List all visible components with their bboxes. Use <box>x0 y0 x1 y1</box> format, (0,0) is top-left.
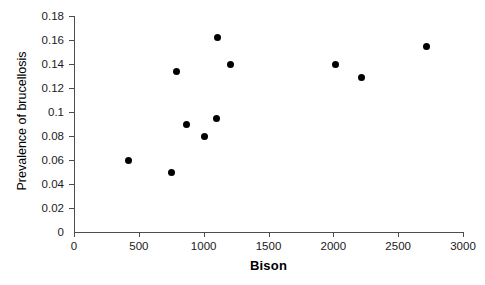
x-tick-label: 1500 <box>256 240 282 252</box>
data-point <box>213 115 220 122</box>
x-tick-mark <box>463 232 464 237</box>
x-tick-mark <box>269 232 270 237</box>
data-point <box>358 74 365 81</box>
data-point <box>125 157 132 164</box>
y-tick-label: 0.18 <box>0 10 64 22</box>
y-tick-label: 0.14 <box>0 58 64 70</box>
y-tick-label: 0.1 <box>0 106 64 118</box>
x-axis-title: Bison <box>74 258 463 273</box>
y-tick-label: 0.04 <box>0 178 64 190</box>
scatter-chart-figure: 00.020.040.060.080.10.120.140.160.18 050… <box>0 0 485 285</box>
x-tick-mark <box>398 232 399 237</box>
data-point <box>173 68 180 75</box>
data-point <box>423 43 430 50</box>
data-point <box>227 61 234 68</box>
x-tick-label: 1000 <box>191 240 217 252</box>
x-tick-mark <box>74 232 75 237</box>
data-point <box>332 61 339 68</box>
x-tick-label: 500 <box>129 240 148 252</box>
y-tick-label: 0 <box>0 226 64 238</box>
x-tick-label: 2500 <box>385 240 411 252</box>
x-tick-label: 2000 <box>321 240 347 252</box>
plot-area <box>74 16 463 232</box>
data-point <box>168 169 175 176</box>
y-tick-label: 0.02 <box>0 202 64 214</box>
data-point <box>183 121 190 128</box>
x-tick-label: 0 <box>71 240 77 252</box>
y-tick-label: 0.16 <box>0 34 64 46</box>
y-tick-label: 0.08 <box>0 130 64 142</box>
data-point <box>214 34 221 41</box>
y-tick-label: 0.06 <box>0 154 64 166</box>
x-tick-mark <box>204 232 205 237</box>
y-tick-label: 0.12 <box>0 82 64 94</box>
data-point <box>201 133 208 140</box>
x-tick-label: 3000 <box>450 240 476 252</box>
x-tick-mark <box>333 232 334 237</box>
y-axis-title: Prevalence of brucellosis <box>15 11 29 231</box>
x-tick-mark <box>139 232 140 237</box>
